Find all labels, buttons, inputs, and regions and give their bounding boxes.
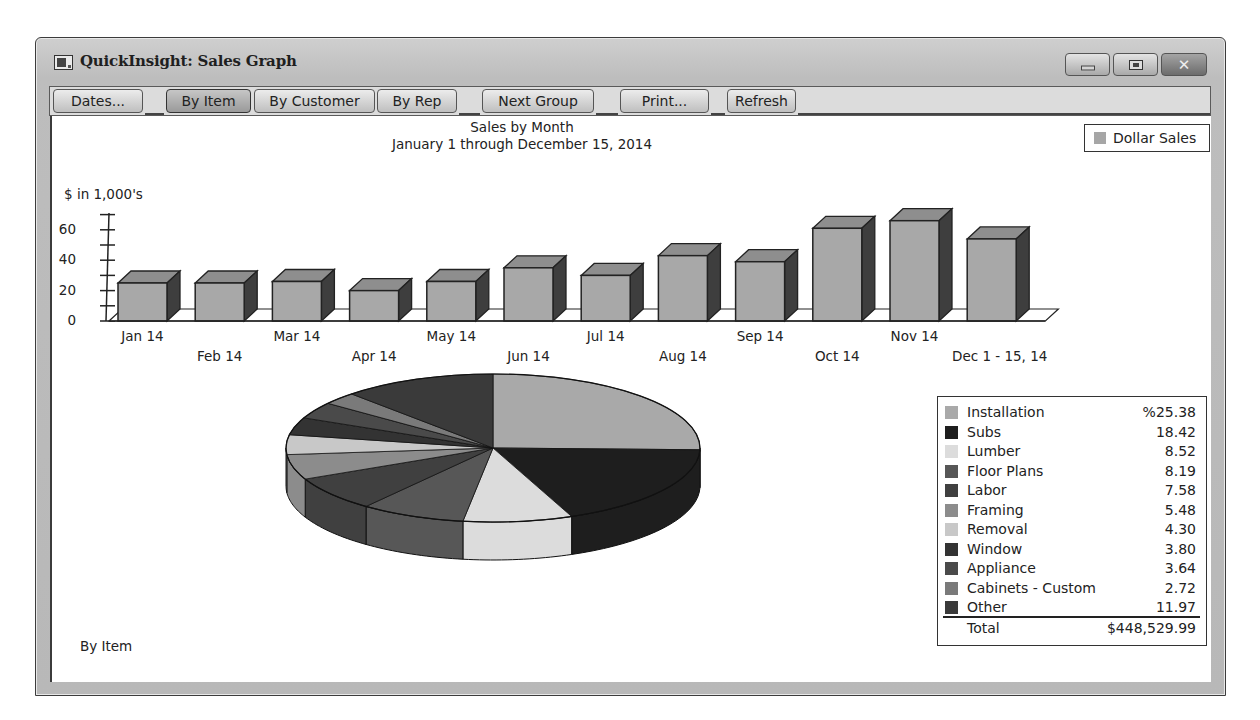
pie-legend-total: Total$448,529.99 [943, 618, 1200, 638]
legend-value: 11.97 [1156, 598, 1196, 617]
legend-label: Cabinets - Custom [967, 579, 1096, 598]
group-label: By Item [80, 638, 132, 654]
maximize-icon [1129, 60, 1143, 70]
legend-value: 5.48 [1165, 501, 1196, 520]
legend-label: Lumber [967, 442, 1020, 461]
minimize-button[interactable] [1065, 53, 1110, 76]
pie-legend-row: Floor Plans8.19 [943, 462, 1200, 482]
legend-label: Appliance [967, 559, 1036, 578]
window-title: QuickInsight: Sales Graph [80, 52, 297, 70]
legend-swatch [945, 445, 958, 458]
pie-legend-row: Framing5.48 [943, 501, 1200, 521]
by-customer-button[interactable]: By Customer [254, 89, 375, 113]
total-label: Total [967, 618, 1000, 639]
app-icon[interactable] [54, 55, 73, 70]
pie-legend-row: Other11.97 [943, 598, 1200, 618]
total-value: $448,529.99 [1107, 618, 1196, 639]
legend-swatch [945, 601, 958, 614]
pie-legend-row: Removal4.30 [943, 520, 1200, 540]
quickinsight-window: QuickInsight: Sales Graph ✕ Dates... By … [35, 37, 1226, 696]
legend-value: 3.80 [1165, 540, 1196, 559]
legend-label: Other [967, 598, 1007, 617]
legend-label: Removal [967, 520, 1028, 539]
window-controls: ✕ [1065, 53, 1207, 76]
toolbar: Dates... By Item By Customer By Rep Next… [49, 86, 1211, 116]
toolbar-separator [711, 113, 725, 115]
pie-legend-row: Installation%25.38 [943, 403, 1200, 423]
legend-label: Floor Plans [967, 462, 1043, 481]
legend-swatch [945, 523, 958, 536]
legend-label: Installation [967, 403, 1045, 422]
legend-label: Subs [967, 423, 1001, 442]
pie-legend-row: Appliance3.64 [943, 559, 1200, 579]
pie-legend-row: Window3.80 [943, 540, 1200, 560]
legend-value: 18.42 [1156, 423, 1196, 442]
legend-swatch [945, 484, 958, 497]
refresh-button[interactable]: Refresh [727, 89, 796, 113]
legend-label: Framing [967, 501, 1024, 520]
pie-slice-installation [493, 374, 700, 450]
pie-legend-row: Labor7.58 [943, 481, 1200, 501]
next-group-button[interactable]: Next Group [482, 89, 594, 113]
maximize-button[interactable] [1113, 53, 1158, 76]
legend-value: 3.64 [1165, 559, 1196, 578]
by-rep-button[interactable]: By Rep [377, 89, 457, 113]
close-icon: ✕ [1178, 57, 1191, 72]
legend-value: 4.30 [1165, 520, 1196, 539]
legend-swatch [945, 406, 958, 419]
legend-swatch [945, 582, 958, 595]
legend-label: Window [967, 540, 1022, 559]
toolbar-separator [596, 113, 618, 115]
legend-label: Labor [967, 481, 1007, 500]
legend-value: 2.72 [1165, 579, 1196, 598]
legend-value: 8.19 [1165, 462, 1196, 481]
minimize-icon [1081, 65, 1095, 70]
print-button[interactable]: Print... [620, 89, 709, 113]
toolbar-separator [459, 113, 480, 115]
pie-legend-row: Lumber8.52 [943, 442, 1200, 462]
toolbar-separator [798, 113, 1210, 115]
pie-legend: Installation%25.38Subs18.42Lumber8.52Flo… [937, 396, 1207, 646]
legend-swatch [945, 426, 958, 439]
legend-value: 8.52 [1165, 442, 1196, 461]
legend-swatch [945, 562, 958, 575]
close-button[interactable]: ✕ [1161, 53, 1207, 76]
toolbar-separator [145, 113, 164, 115]
dates-button[interactable]: Dates... [53, 89, 143, 113]
title-bar[interactable]: QuickInsight: Sales Graph ✕ [36, 38, 1225, 84]
legend-swatch [945, 465, 958, 478]
legend-swatch [945, 543, 958, 556]
by-item-button[interactable]: By Item [166, 89, 251, 113]
legend-value: %25.38 [1143, 403, 1196, 422]
legend-value: 7.58 [1165, 481, 1196, 500]
legend-swatch [945, 504, 958, 517]
pie-legend-row: Subs18.42 [943, 423, 1200, 443]
graph-area: Sales by Month January 1 through Decembe… [50, 116, 1211, 682]
pie-legend-row: Cabinets - Custom2.72 [943, 579, 1200, 599]
